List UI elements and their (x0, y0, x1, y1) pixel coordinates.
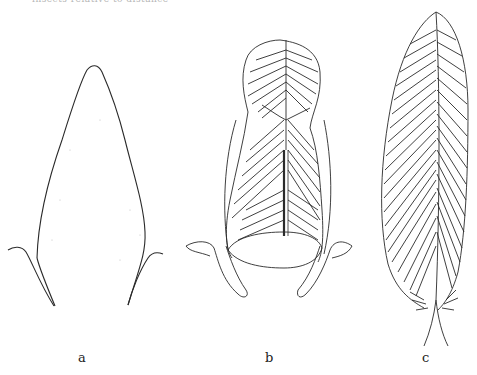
figure-label-a: a (78, 350, 86, 365)
figure-label-b: b (265, 350, 273, 365)
figure-c-drawing (382, 12, 468, 346)
figure-a-drawing (8, 66, 163, 306)
botanical-illustration (0, 0, 477, 375)
figure-b-drawing (186, 40, 352, 297)
figure-label-c: c (422, 350, 429, 365)
